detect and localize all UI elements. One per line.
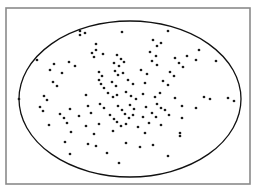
scatter-point [132, 114, 135, 117]
scatter-point [178, 62, 181, 65]
scatter-point [113, 118, 116, 121]
scatter-point [100, 83, 103, 86]
scatter-point [118, 65, 121, 68]
scatter-point [140, 69, 143, 72]
scatter-point [69, 108, 72, 111]
scatter-point [116, 94, 119, 97]
scatter-point [98, 71, 101, 74]
scatter-point [112, 96, 115, 99]
scatter-point [179, 132, 182, 135]
scatter-point [142, 116, 145, 119]
scatter-point [167, 155, 170, 158]
scatter-point [121, 109, 124, 112]
scatter-point [132, 83, 135, 86]
scatter-point [155, 116, 158, 119]
scatter-point [160, 124, 163, 127]
scatter-point [162, 80, 165, 83]
scatter-point [127, 79, 130, 82]
scatter-point [120, 125, 123, 128]
scatter-point [156, 103, 159, 106]
scatter-point [125, 123, 128, 126]
scatter-point [106, 152, 109, 155]
figure-container [0, 0, 257, 193]
scatter-point [121, 31, 124, 34]
scatter-point [85, 125, 88, 128]
scatter-point [137, 126, 140, 129]
scatter-point [52, 81, 55, 84]
scatter-point [43, 95, 46, 98]
scatter-point [109, 114, 112, 117]
scatter-point [181, 105, 184, 108]
scatter-point [85, 94, 88, 97]
scatter-point [128, 117, 131, 120]
scatter-point [39, 106, 42, 109]
scatter-point [164, 109, 167, 112]
scatter-point [181, 117, 184, 120]
scatter-point [93, 56, 96, 59]
scatter-point [152, 39, 155, 42]
scatter-point [124, 113, 127, 116]
scatter-point [95, 49, 98, 52]
scatter-point [56, 85, 59, 88]
scatter-point [117, 105, 120, 108]
figure-background [0, 0, 257, 193]
scatter-point [152, 144, 155, 147]
scatter-point [139, 146, 142, 149]
scatter-point [174, 97, 177, 100]
scatter-point [18, 98, 21, 101]
scatter-point [133, 108, 136, 111]
scatter-point [36, 59, 39, 62]
scatter-point [195, 59, 198, 62]
scatter-point [149, 51, 152, 54]
scatter-point [156, 64, 159, 67]
scatter-point [118, 162, 121, 165]
scatter-point [156, 45, 159, 48]
scatter-point [64, 141, 67, 144]
scatter-point [227, 97, 230, 100]
scatter-point [179, 135, 182, 138]
scatter-point [48, 124, 51, 127]
scatter-point [61, 72, 64, 75]
scatter-point [113, 62, 116, 65]
scatter-point [66, 122, 69, 125]
scatter-point [69, 153, 72, 156]
scatter-point [68, 61, 71, 64]
scatter-point [144, 82, 147, 85]
scatter-point [114, 70, 117, 73]
scatter-point [167, 30, 170, 33]
scatter-point [154, 96, 157, 99]
scatter-point [46, 99, 49, 102]
scatter-point [74, 65, 77, 68]
scatter-point [99, 103, 102, 106]
scatter-point [120, 58, 123, 61]
scatter-point [155, 55, 158, 58]
scatter-point [49, 69, 52, 72]
scatter-point [98, 123, 101, 126]
scatter-point [59, 113, 62, 116]
scatter-point [98, 79, 101, 82]
scatter-point [78, 115, 81, 118]
scatter-point [125, 142, 128, 145]
scatter-point [111, 81, 114, 84]
scatter-point [63, 117, 66, 120]
scatter-point [95, 43, 98, 46]
scatter-point [209, 98, 212, 101]
scatter-point [122, 72, 125, 75]
scatter-point [148, 122, 151, 125]
scatter-point [116, 121, 119, 124]
scatter-point [87, 143, 90, 146]
scatter-point [115, 85, 118, 88]
scatter-point [233, 100, 236, 103]
scatter-point [215, 60, 218, 63]
scatter-point [173, 75, 176, 78]
scatter-point [107, 92, 110, 95]
scatter-point [116, 54, 119, 57]
scatter-point [125, 91, 128, 94]
scatter-point [79, 34, 82, 37]
scatter-point [151, 112, 154, 115]
scatter-point [130, 95, 133, 98]
scatter-point [135, 98, 138, 101]
scatter-point [160, 107, 163, 110]
scatter-point [159, 92, 162, 95]
scatter-point [123, 61, 126, 64]
